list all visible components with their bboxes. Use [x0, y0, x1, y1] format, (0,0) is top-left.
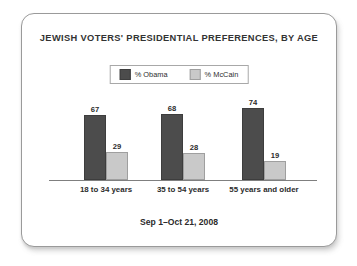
bar-rect	[242, 108, 264, 180]
bar-value-label: 19	[264, 151, 286, 160]
bar-group: 6729	[84, 102, 128, 180]
category-axis: 18 to 34 years35 to 54 years55 years and…	[49, 185, 317, 199]
category-label: 55 years and older	[229, 185, 298, 194]
bar-rect	[183, 153, 205, 180]
bar-value-label: 28	[183, 143, 205, 152]
bar-rect	[84, 115, 106, 180]
bar-group: 7419	[242, 102, 286, 180]
legend-label-obama: % Obama	[135, 70, 168, 79]
legend-item-obama[interactable]: % Obama	[120, 69, 168, 80]
category-label: 18 to 34 years	[80, 185, 132, 194]
bar-value-label: 67	[84, 105, 106, 114]
legend-label-mccain: % McCain	[205, 70, 239, 79]
legend-swatch-mccain	[190, 69, 201, 80]
bar-obama[interactable]: 74	[242, 102, 264, 180]
chart-card: JEWISH VOTERS' PRESIDENTIAL PREFERENCES,…	[21, 13, 337, 247]
bar-group: 6828	[161, 102, 205, 180]
axis-baseline	[49, 180, 317, 181]
bar-obama[interactable]: 68	[161, 102, 183, 180]
page-title: JEWISH VOTERS' PRESIDENTIAL PREFERENCES,…	[22, 33, 336, 43]
legend-item-mccain[interactable]: % McCain	[190, 69, 239, 80]
bar-rect	[161, 114, 183, 180]
bar-mccain[interactable]: 29	[106, 102, 128, 180]
bar-value-label: 68	[161, 104, 183, 113]
bar-rect	[264, 161, 286, 180]
bar-obama[interactable]: 67	[84, 102, 106, 180]
legend-swatch-obama	[120, 69, 131, 80]
bar-mccain[interactable]: 28	[183, 102, 205, 180]
plot-area: 672968287419	[49, 102, 317, 180]
chart-legend: % Obama % McCain	[110, 65, 249, 84]
bar-mccain[interactable]: 19	[264, 102, 286, 180]
bar-rect	[106, 152, 128, 180]
bar-value-label: 29	[106, 142, 128, 151]
bar-value-label: 74	[242, 98, 264, 107]
category-label: 35 to 54 years	[157, 185, 209, 194]
chart-footer-date: Sep 1–Oct 21, 2008	[22, 217, 336, 227]
